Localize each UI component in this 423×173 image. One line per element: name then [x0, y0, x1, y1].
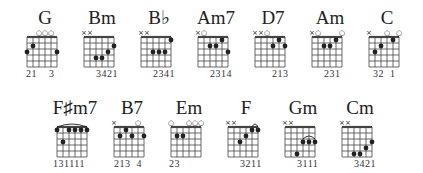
finger-dot: [181, 134, 186, 139]
chord-name: Em: [159, 98, 219, 118]
finger-dot: [271, 44, 276, 49]
finger-numbers: 2341: [153, 68, 175, 79]
finger-dot: [208, 44, 213, 49]
finger-dot: [295, 152, 300, 157]
chord-diagram: ××B♭2341: [129, 8, 189, 88]
finger-dot: [55, 50, 60, 55]
finger-dot: [73, 128, 78, 133]
finger-dot: [142, 134, 147, 139]
chord-name: C: [357, 8, 417, 28]
open-string-icon: ○: [48, 29, 54, 37]
finger-dot: [277, 38, 282, 43]
chord-diagram: ○○○○Em23: [159, 98, 219, 173]
finger-dot: [169, 38, 174, 43]
finger-numbers: 2314: [210, 68, 232, 79]
finger-dot: [175, 134, 180, 139]
chord-diagram: ×○Am72314: [186, 8, 246, 88]
finger-numbers: 3421: [354, 158, 376, 169]
finger-dot: [244, 134, 249, 139]
chord-name: Gm: [273, 98, 333, 118]
finger-dot: [79, 128, 84, 133]
muted-string-icon: ×: [138, 29, 144, 37]
chord-diagram: ○○○G21 3: [15, 8, 75, 88]
chord-diagram: ××Gm3111: [273, 98, 333, 173]
muted-string-icon: ×: [252, 29, 258, 37]
open-string-icon: ○: [315, 29, 321, 37]
muted-string-icon: ×: [144, 29, 150, 37]
open-string-icon: ○: [135, 119, 141, 127]
finger-numbers: 213: [272, 68, 289, 79]
muted-string-icon: ×: [87, 29, 93, 37]
chord-name: B♭: [129, 8, 189, 28]
chord-name: F♯m7: [45, 98, 105, 118]
finger-dot: [328, 44, 333, 49]
finger-dot: [157, 50, 162, 55]
open-string-icon: ○: [339, 29, 345, 37]
muted-string-icon: ×: [81, 29, 87, 37]
finger-numbers: 3111: [297, 158, 318, 169]
open-string-icon: ○: [201, 29, 207, 37]
muted-string-icon: ×: [339, 119, 345, 127]
chord-diagram: ×○B7213 4: [102, 98, 162, 173]
chord-diagram: ××Bm3421: [72, 8, 132, 88]
finger-dot: [370, 140, 375, 145]
open-string-icon: ○: [384, 29, 390, 37]
finger-dot: [100, 56, 105, 61]
finger-dot: [379, 44, 384, 49]
finger-dot: [214, 44, 219, 49]
finger-dot: [352, 152, 357, 157]
finger-dot: [118, 134, 123, 139]
finger-dot: [373, 50, 378, 55]
muted-string-icon: ×: [111, 119, 117, 127]
finger-numbers: 3421: [96, 68, 118, 79]
finger-dot: [106, 50, 111, 55]
open-string-icon: ○: [168, 119, 174, 127]
finger-dot: [112, 44, 117, 49]
chord-diagram: ××○D7213: [243, 8, 303, 88]
finger-dot: [151, 50, 156, 55]
finger-numbers: 23: [169, 158, 180, 169]
chord-diagram: ×○○Am231: [300, 8, 360, 88]
finger-dot: [67, 128, 72, 133]
chord-diagram: ×○○C32 1: [357, 8, 417, 88]
finger-dot: [313, 140, 318, 145]
chord-name: Bm: [72, 8, 132, 28]
finger-dot: [31, 44, 36, 49]
muted-string-icon: ×: [231, 119, 237, 127]
chord-name: Cm: [330, 98, 390, 118]
chord-diagram: F♯m7131111: [45, 98, 105, 173]
finger-dot: [85, 128, 90, 133]
muted-string-icon: ×: [225, 119, 231, 127]
finger-dot: [238, 140, 243, 145]
chord-name: Am: [300, 8, 360, 28]
chord-name: B7: [102, 98, 162, 118]
muted-string-icon: ×: [366, 29, 372, 37]
chord-diagram: ××Cm3421: [330, 98, 390, 173]
finger-dot: [307, 140, 312, 145]
muted-string-icon: ×: [288, 119, 294, 127]
chord-name: G: [15, 8, 75, 28]
finger-dot: [55, 128, 60, 133]
muted-string-icon: ×: [282, 119, 288, 127]
finger-dot: [322, 44, 327, 49]
finger-dot: [364, 146, 369, 151]
finger-numbers: 21 3: [26, 68, 55, 79]
finger-dot: [124, 128, 129, 133]
finger-dot: [391, 38, 396, 43]
finger-dot: [250, 128, 255, 133]
muted-string-icon: ×: [345, 119, 351, 127]
finger-dot: [301, 140, 306, 145]
finger-dot: [61, 140, 66, 145]
finger-dot: [358, 152, 363, 157]
finger-dot: [283, 44, 288, 49]
open-string-icon: ○: [264, 29, 270, 37]
finger-numbers: 3211: [240, 158, 262, 169]
open-string-icon: ○: [198, 119, 204, 127]
finger-dot: [226, 50, 231, 55]
finger-dot: [334, 38, 339, 43]
chord-name: D7: [243, 8, 303, 28]
finger-dot: [220, 38, 225, 43]
finger-numbers: 131111: [53, 158, 85, 169]
chord-name: Am7: [186, 8, 246, 28]
finger-dot: [130, 134, 135, 139]
